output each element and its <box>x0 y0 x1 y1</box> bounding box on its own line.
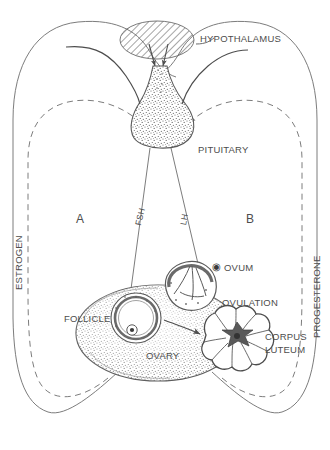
pituitary-shape <box>131 66 194 148</box>
corpus-luteum-label-line2: LUTEUM <box>265 344 305 355</box>
estrogen-label: ESTROGEN <box>13 235 24 290</box>
diagram-canvas: HYPOTHALAMUS PITUITARY FSH LH ◉ OVUM OVU… <box>0 0 330 450</box>
corpus-luteum-label-line1: CORPUS <box>265 331 307 342</box>
hypothalamus-shape <box>120 21 194 59</box>
ovum-label: OVUM <box>224 262 253 273</box>
phase-a-label: A <box>76 212 84 226</box>
corpus-luteum-shape <box>202 306 274 371</box>
lh-line <box>171 148 199 268</box>
ovary-label: OVARY <box>146 350 179 361</box>
diagram-graphics <box>0 0 330 450</box>
phase-b-label: B <box>246 212 254 226</box>
lh-label: LH <box>178 213 190 226</box>
ovulation-label: OVULATION <box>222 297 278 308</box>
progesterone-label: PROGESTERONE <box>311 255 322 338</box>
pituitary-label: PITUITARY <box>198 144 249 155</box>
hypothalamus-label: HYPOTHALAMUS <box>200 33 281 44</box>
follicle-label: FOLLICLE <box>64 313 110 324</box>
follicle-shape <box>111 293 161 343</box>
ovum-icon: ◉ <box>212 262 221 272</box>
ruptured-follicle-shape <box>165 261 216 310</box>
